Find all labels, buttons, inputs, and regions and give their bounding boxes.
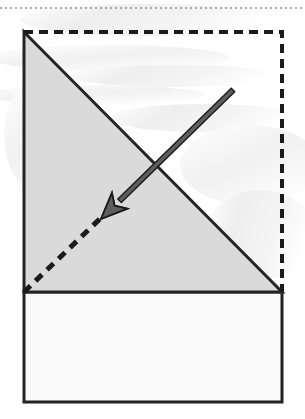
origami-diagram-figure: Origami valley-fold step diagram A squar… <box>0 0 305 419</box>
diagram-canvas <box>0 0 305 419</box>
lower-white-panel <box>24 292 282 402</box>
